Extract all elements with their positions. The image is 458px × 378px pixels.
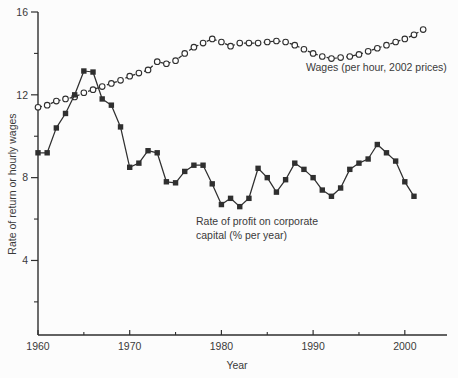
profit-marker	[164, 179, 169, 184]
profit-marker	[246, 196, 251, 201]
wages-marker	[164, 61, 170, 67]
profit-series-annotation-line2: capital (% per year)	[196, 229, 318, 243]
wages-marker	[154, 59, 160, 65]
profit-marker	[384, 150, 389, 155]
profit-marker	[200, 163, 205, 168]
profit-marker	[338, 185, 343, 190]
profit-marker	[210, 181, 215, 186]
x-tick-label: 1980	[210, 340, 234, 352]
profit-marker	[155, 150, 160, 155]
profit-marker	[191, 163, 196, 168]
y-tick-label: 16	[16, 6, 28, 18]
wages-marker	[356, 52, 362, 58]
profit-marker	[356, 160, 361, 165]
wages-marker	[99, 84, 105, 90]
profit-marker	[237, 204, 242, 209]
profit-marker	[109, 102, 114, 107]
wages-marker	[393, 39, 399, 45]
profit-marker	[118, 124, 123, 129]
wages-marker	[173, 58, 179, 64]
wages-marker	[118, 78, 124, 84]
wages-marker	[301, 46, 307, 52]
profit-marker	[411, 194, 416, 199]
wages-marker	[375, 45, 381, 51]
profit-marker	[54, 125, 59, 130]
wages-marker	[182, 51, 188, 57]
y-axis-title: Rate of return or hourly wages	[6, 113, 20, 254]
profit-series-annotation-line1: Rate of profit on corporate	[196, 215, 318, 229]
profit-marker	[265, 175, 270, 180]
wages-marker	[283, 39, 289, 45]
profit-marker	[136, 160, 141, 165]
wages-marker	[127, 73, 133, 79]
profit-marker	[310, 175, 315, 180]
wages-marker	[319, 54, 325, 60]
wages-marker	[402, 36, 408, 42]
wages-marker	[109, 81, 115, 87]
profit-marker	[283, 177, 288, 182]
profit-marker	[35, 150, 40, 155]
profit-marker	[81, 68, 86, 73]
profit-marker	[127, 165, 132, 170]
wages-marker	[264, 39, 270, 45]
profit-marker	[99, 96, 104, 101]
profit-marker	[365, 156, 370, 161]
profit-series-annotation: Rate of profit on corporate capital (% p…	[196, 215, 318, 242]
wages-marker	[81, 90, 87, 96]
profit-marker	[329, 194, 334, 199]
wages-marker	[219, 39, 225, 45]
profit-marker	[145, 148, 150, 153]
y-tick-label: 8	[22, 171, 28, 183]
wages-marker	[44, 102, 50, 108]
wages-marker	[209, 36, 215, 42]
x-tick-label: 1960	[26, 340, 50, 352]
wages-marker	[246, 40, 252, 46]
profit-marker	[72, 92, 77, 97]
x-axis-title: Year	[226, 359, 247, 373]
wages-marker	[420, 27, 426, 33]
x-tick-label: 1970	[118, 340, 142, 352]
wages-marker	[63, 96, 69, 102]
profit-marker	[375, 142, 380, 147]
wages-marker	[310, 51, 316, 57]
profit-marker	[219, 202, 224, 207]
profit-marker	[320, 187, 325, 192]
wages-marker	[200, 40, 206, 46]
figure-root: 48121619601970198019902000 Rate of retur…	[0, 0, 458, 378]
wages-marker	[411, 32, 417, 38]
profit-marker	[173, 180, 178, 185]
y-tick-label: 12	[16, 89, 28, 101]
wages-marker	[274, 38, 280, 44]
wages-marker	[338, 55, 344, 61]
profit-marker	[402, 179, 407, 184]
x-tick-label: 1990	[301, 340, 325, 352]
wages-marker	[136, 70, 142, 76]
profit-marker	[255, 166, 260, 171]
profit-marker	[301, 167, 306, 172]
wages-marker	[35, 104, 41, 110]
wages-marker	[384, 42, 390, 48]
wages-marker	[292, 42, 298, 48]
wages-marker	[347, 54, 353, 60]
wages-marker	[255, 40, 261, 46]
wages-marker	[145, 67, 151, 73]
profit-marker	[393, 158, 398, 163]
x-tick-label: 2000	[393, 340, 417, 352]
y-tick-label: 4	[22, 254, 28, 266]
profit-marker	[63, 111, 68, 116]
wages-profit-chart: 48121619601970198019902000	[0, 0, 458, 378]
wages-series-annotation: Wages (per hour, 2002 prices)	[306, 61, 447, 75]
profit-marker	[347, 167, 352, 172]
profit-marker	[90, 69, 95, 74]
profit-marker	[44, 150, 49, 155]
profit-marker	[274, 189, 279, 194]
profit-marker	[292, 160, 297, 165]
wages-marker	[237, 40, 243, 46]
profit-marker	[228, 196, 233, 201]
wages-marker	[191, 44, 197, 50]
wages-marker	[90, 87, 96, 93]
wages-marker	[228, 43, 234, 49]
profit-marker	[182, 169, 187, 174]
wages-marker	[54, 98, 60, 104]
wages-marker	[365, 49, 371, 55]
